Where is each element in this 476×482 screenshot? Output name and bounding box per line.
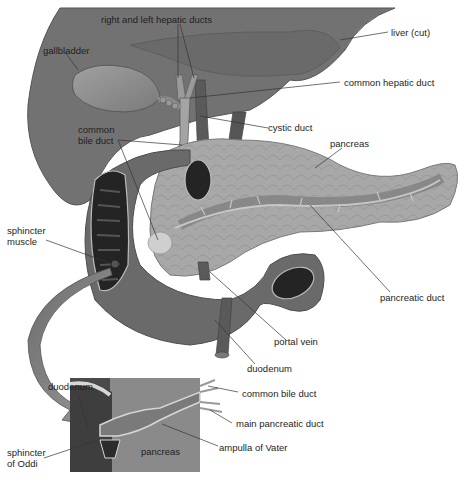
diagram-illustration [0,0,476,482]
label-duodenum-inset: duodenum [48,381,93,392]
label-common-bile-duct: common bile duct [78,124,114,146]
label-sphincter-of-oddi: sphincter of Oddi [7,447,46,469]
label-liver-cut: liver (cut) [391,27,430,38]
label-sphincter-of-oddi-line2: of Oddi [7,458,46,469]
label-cystic-duct: cystic duct [268,122,312,133]
label-duodenum-main: duodenum [247,363,292,374]
label-common-bile-duct-line1: common [78,124,114,135]
label-inset-ampulla-of-vater: ampulla of Vater [219,442,287,453]
ampulla-bulge [148,232,172,254]
sphincter-muscle-marker [111,260,119,268]
label-common-bile-duct-line2: bile duct [78,135,114,146]
digestive-anatomy-diagram: right and left hepatic ducts gallbladder… [0,0,476,482]
label-right-left-hepatic-ducts: right and left hepatic ducts [101,14,212,25]
label-portal-vein: portal vein [274,336,318,347]
label-sphincter-of-oddi-line1: sphincter [7,447,46,458]
duodenum-lumen-upper [185,160,211,200]
label-inset-pancreas: pancreas [141,446,180,457]
label-sphincter-muscle-line1: sphincter [7,225,46,236]
label-inset-main-pancreatic-duct: main pancreatic duct [236,418,324,429]
label-sphincter-muscle-line2: muscle [7,236,46,247]
label-pancreatic-duct: pancreatic duct [380,292,444,303]
label-gallbladder: gallbladder [43,45,89,56]
label-common-hepatic-duct: common hepatic duct [344,77,434,88]
label-pancreas: pancreas [330,138,369,149]
label-inset-common-bile-duct: common bile duct [242,388,316,399]
label-sphincter-muscle: sphincter muscle [7,225,46,247]
ampulla-inset [70,378,222,472]
